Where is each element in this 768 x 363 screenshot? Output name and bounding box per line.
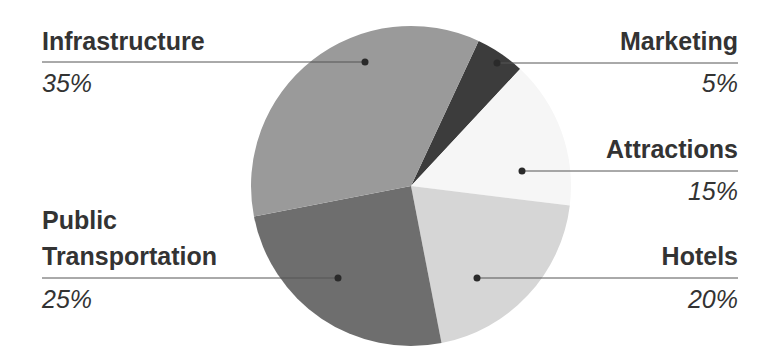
label-hotels: Hotels [662,241,738,271]
label-public-transportation-line1: Public [42,205,117,235]
pie-slices [251,26,571,346]
label-attractions: Attractions [606,134,738,164]
pct-infrastructure: 35% [42,68,92,98]
leader-dot [519,168,526,175]
label-infrastructure: Infrastructure [42,26,205,56]
pct-marketing: 5% [702,68,738,98]
label-public-transportation-line2: Transportation [42,241,217,271]
label-marketing: Marketing [620,26,738,56]
leader-dot [474,275,481,282]
leader-dot [362,59,369,66]
pct-public-transportation: 25% [42,284,92,314]
pct-attractions: 15% [688,176,738,206]
leader-dot [335,275,342,282]
leader-dot [494,60,501,67]
pct-hotels: 20% [688,284,738,314]
pie-chart: Infrastructure 35% Public Transportation… [0,0,768,363]
